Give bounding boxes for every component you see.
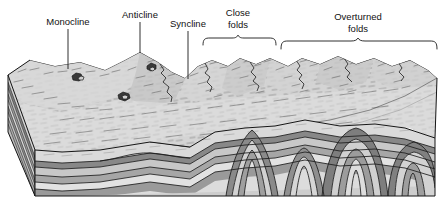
label-anticline: Anticline	[122, 9, 158, 20]
close-folds-bracket	[203, 35, 276, 45]
overturned-folds-bracket	[281, 38, 437, 49]
label-syncline: Syncline	[170, 18, 206, 29]
label-close-folds-line2: folds	[228, 19, 248, 30]
geology-block-diagram: Monocline Anticline Syncline Close folds…	[0, 0, 445, 208]
brackets	[203, 35, 437, 49]
figure-labels: Monocline Anticline Syncline Close folds…	[46, 7, 381, 34]
label-overturned-folds-line1: Overturned	[334, 11, 382, 22]
label-monocline: Monocline	[46, 16, 89, 27]
figure-canvas: Monocline Anticline Syncline Close folds…	[0, 0, 445, 208]
label-overturned-folds-line2: folds	[348, 23, 368, 34]
label-close-folds-line1: Close	[226, 7, 250, 18]
